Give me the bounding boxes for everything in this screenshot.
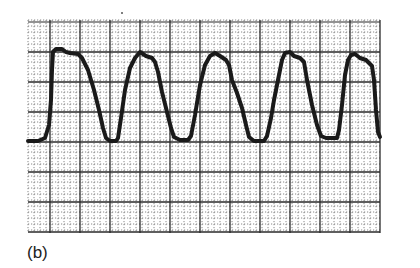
speck-mark [121,12,123,14]
panel-label: (b) [27,243,48,263]
strip-chart-figure [0,0,420,268]
background [0,0,420,268]
